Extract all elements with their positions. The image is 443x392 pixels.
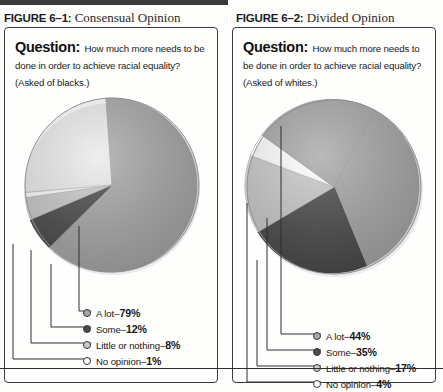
legend-value: 8% [165, 339, 180, 351]
figure-box-6-2: Question: How much more needs to be done… [232, 27, 436, 383]
figure-label: FIGURE 6–1 [4, 12, 68, 24]
legend-item[interactable]: Some – 35% [313, 344, 416, 360]
legend-item[interactable]: A lot – 44% [313, 328, 416, 344]
question-label: Question: [243, 39, 308, 55]
legend-value: 35% [356, 346, 377, 358]
pie-svg [239, 90, 429, 285]
legend-value: 79% [120, 307, 141, 319]
legend-6-1: A lot – 79% Some – 12% Little or nothing… [83, 305, 180, 369]
legend-label: A lot [96, 308, 114, 319]
legend-value: 12% [126, 323, 147, 335]
legend-label: Some [326, 347, 351, 358]
question-block-6-1: Question: How much more needs to be done… [15, 39, 209, 90]
legend-swatch-no-opinion [83, 357, 91, 365]
pie-outline [247, 100, 421, 274]
legend-swatch-a-lot [83, 309, 91, 317]
legend-swatch-little-or-nothing [83, 341, 91, 349]
figure-title: Consensual Opinion [75, 10, 181, 25]
footer-rule [0, 368, 443, 369]
figure-title: Divided Opinion [307, 10, 395, 25]
legend-label: Some [96, 324, 121, 335]
pie-svg [17, 90, 207, 280]
pie-chart-6-1 [17, 90, 207, 280]
figure-box-6-1: Question: How much more needs to be done… [4, 27, 218, 383]
figure-label: FIGURE 6–2 [236, 12, 300, 24]
question-block-6-2: Question: How much more needs to be done… [243, 39, 427, 90]
legend-item[interactable]: A lot – 79% [83, 305, 180, 321]
figure-separator: : [300, 12, 304, 24]
legend-label: Little or nothing [96, 340, 160, 351]
legend-value: 1% [146, 355, 161, 367]
figure-caption-6-2: FIGURE 6–2: Divided Opinion [236, 10, 394, 26]
footer-note [228, 374, 443, 385]
legend-item[interactable]: No opinion – 1% [83, 353, 180, 369]
legend-value: 44% [350, 330, 371, 342]
legend-swatch-some [313, 348, 321, 356]
legend-swatch-a-lot [313, 332, 321, 340]
legend-label: No opinion [96, 356, 141, 367]
pie-chart-6-2 [239, 90, 429, 285]
figure-separator: : [68, 12, 72, 24]
top-rule [0, 0, 228, 5]
legend-label: A lot [326, 331, 344, 342]
legend-swatch-some [83, 325, 91, 333]
legend-item[interactable]: Some – 12% [83, 321, 180, 337]
figure-caption-6-1: FIGURE 6–1: Consensual Opinion [4, 10, 180, 26]
legend-item[interactable]: Little or nothing – 8% [83, 337, 180, 353]
pie-outline [25, 98, 199, 272]
question-label: Question: [15, 39, 80, 55]
